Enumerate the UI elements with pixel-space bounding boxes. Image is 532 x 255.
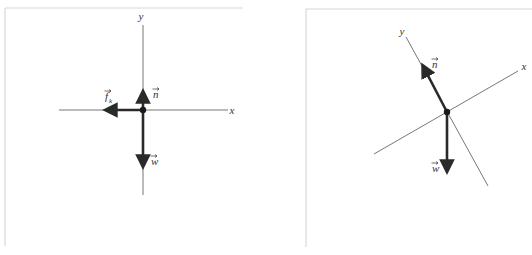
x-axis-label: x <box>229 104 235 116</box>
vector-n-label: n <box>153 88 160 101</box>
particle-dot <box>140 107 146 113</box>
svg-text:w: w <box>151 155 159 167</box>
y-axis-label: y <box>138 10 144 22</box>
vector-w-label: w <box>151 155 160 168</box>
x-axis-label: x <box>521 60 527 72</box>
svg-text:k: k <box>109 97 113 105</box>
diagram-tilted-axes: xynw <box>306 9 532 247</box>
vector-n-arrow <box>423 66 447 112</box>
svg-text:w: w <box>432 162 440 174</box>
vector-n-label: n <box>432 58 439 71</box>
y-axis-label: y <box>399 25 405 37</box>
diagram-level-axes: xynwfk <box>5 8 243 246</box>
free-body-diagrams: xynwfk xynw <box>0 0 532 255</box>
vector-f_k-label: fk <box>105 90 114 106</box>
particle-dot <box>444 109 450 115</box>
vector-w-label: w <box>432 162 441 175</box>
